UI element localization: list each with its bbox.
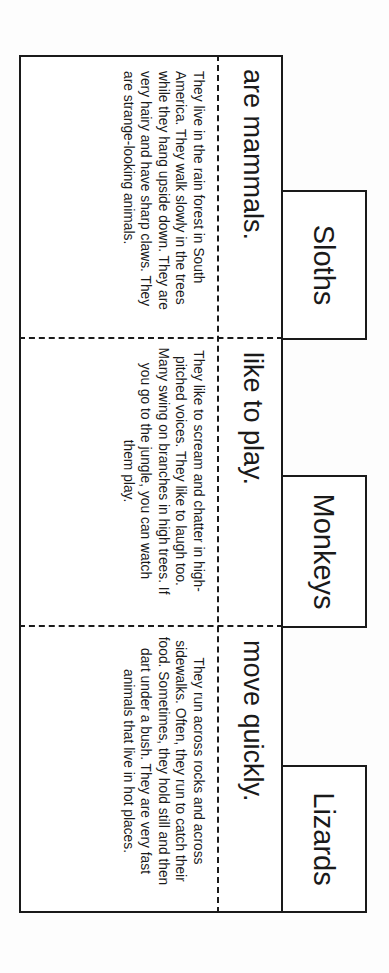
panel-sloths: are mammals. They live in the rain fores… — [19, 55, 283, 338]
tab-lizards: Lizards — [283, 765, 367, 913]
panel-lizards: move quickly. They run across rocks and … — [19, 626, 283, 913]
tab-label: Sloths — [308, 225, 341, 306]
panel-subtitle: move quickly. — [235, 640, 271, 903]
tab-sloths: Sloths — [283, 190, 367, 340]
panel-monkeys: like to play. They like to scream and ch… — [19, 338, 283, 626]
panel-description: They live in the rain forest in South Am… — [120, 71, 208, 326]
panel-subtitle: are mammals. — [235, 69, 271, 328]
panel-subtitle: like to play. — [235, 352, 271, 616]
panel-description: They like to scream and chatter in high-… — [120, 346, 208, 596]
tab-monkeys: Monkeys — [283, 475, 367, 628]
tab-label: Lizards — [308, 792, 341, 886]
tab-label: Monkeys — [308, 493, 341, 609]
panel-description: They run across rocks and across sidewal… — [120, 636, 208, 886]
foldable-sheet: Sloths Monkeys Lizards are mammals. They… — [19, 55, 367, 913]
